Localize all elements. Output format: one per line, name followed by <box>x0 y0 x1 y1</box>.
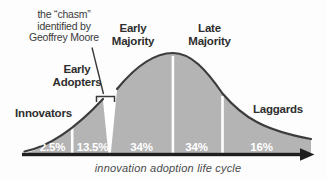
segment-label-late-majority-line-1: Late <box>198 22 221 34</box>
segment-label-early-majority-line-1: Early <box>119 22 147 34</box>
segment-percent-innovators: 2.5% <box>40 141 65 153</box>
segment-label-early-adopters-line-2: Adopters <box>53 76 102 88</box>
adoption-lifecycle-diagram: the “chasm” identified by Geoffrey Moore… <box>0 0 327 179</box>
segment-label-late-majority-line-2: Majority <box>188 35 231 47</box>
segment-label-early-majority-line-2: Majority <box>112 35 155 47</box>
segment-percent-early-majority: 34% <box>130 141 152 153</box>
callout-line-1: the “chasm” <box>37 8 91 20</box>
x-axis-line <box>22 153 303 156</box>
segment-label-laggards: Laggards <box>253 103 303 115</box>
diagram-canvas: the “chasm” identified by Geoffrey Moore… <box>0 0 327 179</box>
divider-earlymajority-latemajority <box>172 56 175 153</box>
callout-line-3: Geoffrey Moore <box>29 31 99 43</box>
segment-percent-early-adopters: 13.5% <box>77 141 109 153</box>
segment-percent-laggards: 16% <box>250 141 272 153</box>
axis-caption: innovation adoption life cycle <box>95 162 242 174</box>
divider-latemajority-laggards <box>221 96 224 153</box>
segment-label-early-adopters-line-1: Early <box>63 63 91 75</box>
segment-percent-late-majority: 34% <box>185 141 207 153</box>
segment-label-innovators: Innovators <box>15 107 72 119</box>
callout-line-2: identified by <box>37 20 91 32</box>
